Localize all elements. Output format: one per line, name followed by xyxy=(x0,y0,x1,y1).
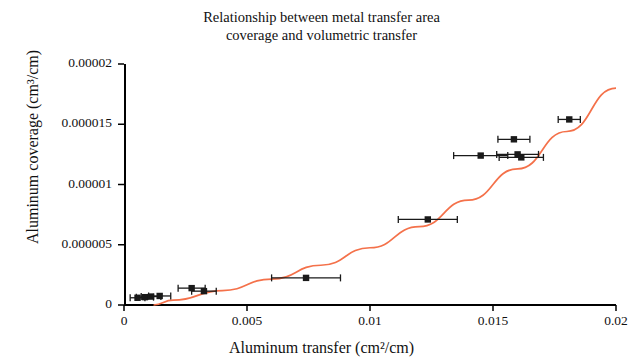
chart-title: Relationship between metal transfer area… xyxy=(0,8,643,44)
data-point xyxy=(558,116,580,123)
chart-container: Relationship between metal transfer area… xyxy=(0,0,643,361)
data-point xyxy=(498,136,530,143)
y-tick-label: 0.00002 xyxy=(2,55,112,71)
x-tick-label: 0.005 xyxy=(207,313,287,329)
y-tick-label: 0.00001 xyxy=(2,176,112,192)
axis-ticks xyxy=(118,64,616,311)
y-tick-label: 0.000005 xyxy=(2,236,112,252)
x-tick-label: 0.015 xyxy=(453,313,533,329)
x-tick-label: 0.01 xyxy=(330,313,410,329)
y-tick-label: 0.000015 xyxy=(2,115,112,131)
chart-title-line-2: coverage and volumetric transfer xyxy=(0,26,643,44)
data-points xyxy=(130,116,580,301)
fit-curve xyxy=(154,88,616,305)
data-point xyxy=(272,274,341,281)
data-point xyxy=(398,216,457,223)
x-tick-label: 0 xyxy=(84,313,164,329)
chart-title-line-1: Relationship between metal transfer area xyxy=(0,8,643,26)
x-tick-label: 0.02 xyxy=(576,313,643,329)
plot-area: 00.0000050.000010.0000150.00002 00.0050.… xyxy=(124,64,616,305)
y-tick-label: 0 xyxy=(2,296,112,312)
x-axis-label: Aluminum transfer (cm²/cm) xyxy=(0,339,643,357)
data-layer xyxy=(124,64,616,305)
